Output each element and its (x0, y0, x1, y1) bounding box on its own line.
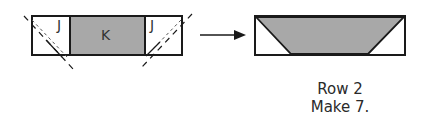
label-j-right: J (150, 17, 154, 33)
label-j-left: J (57, 17, 61, 33)
right-arrow-icon (200, 30, 246, 40)
piece-j-left (32, 16, 70, 55)
caption: Row 2 Make 7. (296, 80, 384, 116)
caption-make: Make 7. (296, 98, 384, 116)
result-unit (255, 16, 405, 55)
label-k: K (101, 27, 110, 43)
caption-row: Row 2 (296, 80, 384, 98)
